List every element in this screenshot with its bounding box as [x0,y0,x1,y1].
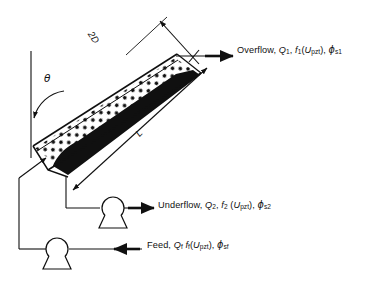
overflow-name: Overflow [237,45,274,55]
underflow-label: Underflow, Q2, f2 (Upzt), ϕs2 [158,199,271,210]
feed-fraction-subscript: sf [224,243,229,250]
angle-label: θ [44,72,50,84]
feed-argument-symbol: U [193,240,200,250]
overflow-argument-subscript: pzt [311,48,320,55]
feed-flow-symbol: Q [174,240,181,250]
underflow-argument-subscript: pzt [240,203,249,210]
suspension-region [35,58,193,166]
figure-canvas: 2D L θ Overflow, Q1, f1(Upzt), ϕs1 Under… [0,0,366,284]
underflow-pump-base [99,215,127,228]
feed-pump-base [43,256,71,269]
feed-name: Feed [147,240,168,250]
feed-inlet-arrow [19,158,46,178]
feed-stream [19,158,142,269]
width-dimension [126,17,199,64]
underflow-name: Underflow [158,200,200,210]
inclined-channel [33,54,201,177]
theta-arc-arrow [34,91,64,118]
feed-argument-subscript: pzt [200,243,209,250]
overflow-label: Overflow, Q1, f1(Upzt), ϕs1 [237,44,342,55]
overflow-fraction-subscript: s1 [335,48,342,55]
underflow-fraction-subscript: s2 [264,203,271,210]
feed-label: Feed, Qf ff(Upzt), ϕsf [147,239,229,250]
